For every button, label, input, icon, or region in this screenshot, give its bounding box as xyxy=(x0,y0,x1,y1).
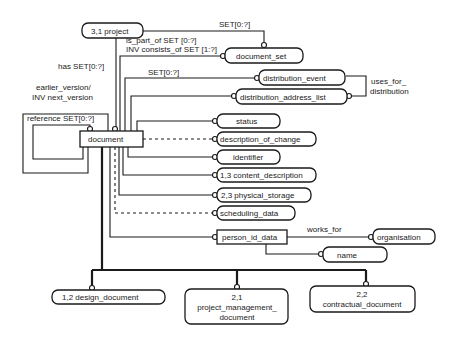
entity-person-id-data[interactable]: person_id_data xyxy=(217,230,287,244)
edge-person-id-data xyxy=(110,147,213,237)
entity-document-set-label: document_set xyxy=(236,52,287,61)
entity-description-of-change[interactable]: description_of_change xyxy=(217,132,316,146)
entity-contractual-document[interactable]: 2,2 contractual_document xyxy=(310,286,415,312)
entity-organisation-label: organisation xyxy=(377,233,421,242)
entity-project-management-document[interactable]: 2,1 project_management_ document xyxy=(185,289,288,324)
label-inv-consists-of: INV consists_of SET [1:?] xyxy=(126,45,217,54)
edge-physical-storage xyxy=(119,147,213,195)
entity-scheduling-data-label: scheduling_data xyxy=(220,209,279,218)
entity-organisation[interactable]: organisation xyxy=(373,229,435,244)
entity-project-label: 3,1 project xyxy=(91,27,129,36)
entity-content-description-label: 1,3 content_description xyxy=(220,171,303,180)
circle-icon xyxy=(262,43,267,48)
entity-description-of-change-label: description_of_change xyxy=(220,135,301,144)
label-inv-next-version: INV next_version xyxy=(32,93,93,102)
entity-person-id-data-label: person_id_data xyxy=(222,233,278,242)
entity-contractual-line2: contractual_document xyxy=(323,300,402,309)
express-g-diagram: SET[0:?] is_part_of SET [0:?] INV consis… xyxy=(0,0,457,337)
label-has-set: has SET[0:?] xyxy=(58,62,104,71)
entity-identifier[interactable]: identifier xyxy=(217,150,280,164)
entity-pm-doc-line1: 2,1 xyxy=(231,293,243,302)
entity-design-document[interactable]: 1,2 design_document xyxy=(52,290,165,304)
edge-name xyxy=(266,244,319,254)
entity-distribution-address-list-label: distribution_address_list xyxy=(240,93,327,102)
entity-document[interactable]: document xyxy=(80,131,143,147)
edge-document-distribution-address-list xyxy=(131,96,232,131)
entity-contractual-line1: 2,2 xyxy=(356,290,368,299)
edge-identifier xyxy=(128,147,213,157)
entity-identifier-label: identifier xyxy=(233,153,264,162)
entity-document-label: document xyxy=(88,135,124,144)
entity-pm-doc-line3: document xyxy=(219,313,255,322)
label-uses-for: uses_for_ xyxy=(371,77,407,86)
label-works-for: works_for xyxy=(306,225,342,234)
label-set-distribution: SET[0:?] xyxy=(148,68,179,77)
label-reference-set: reference SET[0:?] xyxy=(27,114,94,123)
entity-document-set[interactable]: document_set xyxy=(225,48,303,63)
edge-status xyxy=(137,121,213,131)
entity-name-label: name xyxy=(337,251,358,260)
entity-status-label: status xyxy=(236,117,257,126)
label-distribution: distribution xyxy=(370,87,409,96)
entity-design-document-label: 1,2 design_document xyxy=(62,293,139,302)
entity-physical-storage-label: 2,3 physical_storage xyxy=(221,191,295,200)
entity-content-description[interactable]: 1,3 content_description xyxy=(217,168,316,182)
edge-content-description xyxy=(123,147,213,175)
entity-project[interactable]: 3,1 project xyxy=(82,23,143,38)
entity-distribution-event[interactable]: distribution_event xyxy=(259,70,345,85)
entity-status[interactable]: status xyxy=(217,114,280,128)
label-set-project: SET[0:?] xyxy=(219,20,250,29)
entity-distribution-address-list[interactable]: distribution_address_list xyxy=(236,89,347,104)
entity-physical-storage[interactable]: 2,3 physical_storage xyxy=(217,188,311,202)
entity-scheduling-data[interactable]: scheduling_data xyxy=(217,206,295,220)
entity-distribution-event-label: distribution_event xyxy=(263,74,326,83)
entity-name[interactable]: name xyxy=(323,247,387,262)
entity-pm-doc-line2: project_management_ xyxy=(197,303,277,312)
label-earlier-version: earlier_version/ xyxy=(36,83,91,92)
